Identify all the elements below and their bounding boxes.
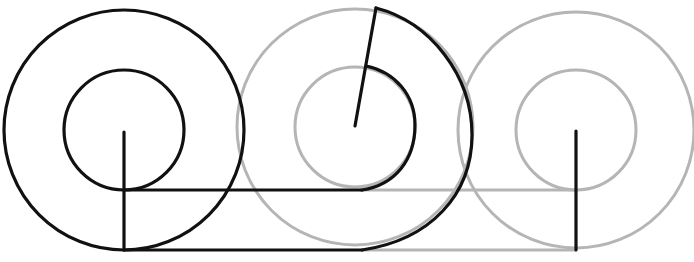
inner-trace-arc xyxy=(362,66,415,190)
diagram-canvas: Rolling concentric circles (Aristotle's … xyxy=(0,0,694,262)
ghost-layer xyxy=(237,9,694,250)
active-layer xyxy=(4,8,576,250)
outer-trace-arc xyxy=(362,8,472,250)
rolling-wheels-diagram xyxy=(0,0,694,262)
